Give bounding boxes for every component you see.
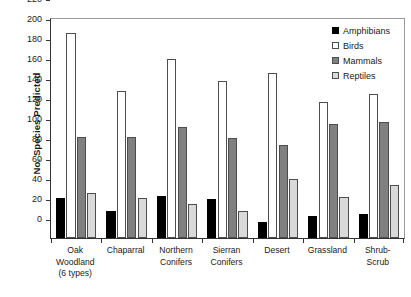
bar-reptiles (289, 179, 298, 238)
bar-birds (319, 102, 328, 238)
bar-mammals (127, 137, 136, 238)
legend-label: Reptiles (343, 71, 376, 81)
x-axis-ticks (50, 239, 405, 243)
bar-group (101, 18, 151, 238)
x-tick-mark (202, 239, 203, 243)
legend-swatch-amphibians (332, 27, 339, 34)
y-tick-label: 80 (32, 134, 42, 144)
bar-reptiles (87, 193, 96, 238)
bar-mammals (228, 138, 237, 238)
x-tick-mark (51, 239, 52, 243)
y-tick-label: 120 (27, 94, 42, 104)
bar-mammals (77, 137, 86, 238)
x-axis-label-line: Shrub- (347, 245, 409, 257)
y-tick-label: 200 (27, 14, 42, 24)
chart-legend: AmphibiansBirdsMammalsReptiles (328, 21, 404, 85)
y-axis-ticks: 020406080100120140160180200220 (0, 0, 50, 221)
y-tick-label: 60 (32, 154, 42, 164)
bar-amphibians (359, 214, 368, 238)
x-axis-label: Shrub-Scrub (347, 245, 409, 268)
bar-amphibians (56, 198, 65, 238)
x-tick-mark (354, 239, 355, 243)
bar-reptiles (339, 197, 348, 238)
bar-group (51, 18, 101, 238)
bar-amphibians (258, 222, 267, 238)
bar-reptiles (390, 185, 399, 238)
x-axis-label-line: (6 types) (44, 268, 106, 280)
bar-group (152, 18, 202, 238)
chart-figure: No. Species Predicted 020406080100120140… (0, 0, 411, 297)
bar-mammals (178, 127, 187, 238)
legend-swatch-mammals (332, 57, 339, 64)
bar-birds (117, 91, 126, 238)
x-axis-label-line: Scrub (347, 257, 409, 269)
legend-item-birds: Birds (332, 38, 404, 53)
bar-birds (268, 73, 277, 238)
legend-item-amphibians: Amphibians (332, 23, 404, 38)
y-tick-label: 220 (27, 0, 42, 4)
legend-item-reptiles: Reptiles (332, 68, 404, 83)
bar-group (253, 18, 303, 238)
x-tick-mark (253, 239, 254, 243)
bar-amphibians (106, 211, 115, 238)
bar-reptiles (188, 204, 197, 238)
x-axis-label-line: Conifers (195, 257, 257, 269)
bar-mammals (329, 124, 338, 238)
bar-reptiles (238, 211, 247, 238)
bar-birds (369, 94, 378, 238)
bar-birds (218, 81, 227, 238)
y-tick-label: 40 (32, 174, 42, 184)
y-tick-label: 0 (37, 214, 42, 224)
legend-swatch-reptiles (332, 72, 339, 79)
legend-label: Birds (343, 41, 364, 51)
bar-mammals (379, 122, 388, 238)
x-tick-mark (403, 239, 404, 243)
y-tick-mark (46, 0, 50, 1)
bar-amphibians (308, 216, 317, 238)
y-tick-label: 100 (27, 114, 42, 124)
x-tick-mark (152, 239, 153, 243)
legend-swatch-birds (332, 42, 339, 49)
bar-reptiles (138, 198, 147, 238)
y-tick-label: 140 (27, 74, 42, 84)
x-tick-mark (303, 239, 304, 243)
legend-item-mammals: Mammals (332, 53, 404, 68)
x-tick-mark (101, 239, 102, 243)
y-tick-label: 180 (27, 34, 42, 44)
y-tick-label: 160 (27, 54, 42, 64)
bar-amphibians (157, 196, 166, 238)
bar-amphibians (207, 199, 216, 238)
bar-group (202, 18, 252, 238)
y-tick-label: 20 (32, 194, 42, 204)
bar-mammals (279, 145, 288, 238)
bar-birds (167, 59, 176, 238)
x-axis-labels: OakWoodland(6 types)ChaparralNorthernCon… (50, 245, 405, 295)
bar-birds (66, 33, 75, 238)
legend-label: Mammals (343, 56, 382, 66)
x-axis-label-line: Woodland (44, 257, 106, 269)
legend-label: Amphibians (343, 26, 390, 36)
